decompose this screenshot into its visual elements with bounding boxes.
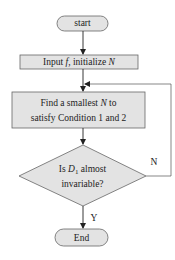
decision-node-label-line1: Is D1 almost	[19, 163, 146, 178]
flowchart-canvas	[0, 0, 175, 260]
decision-label-part: Is	[59, 164, 68, 174]
decision-label-var-d: D	[68, 164, 75, 174]
find-node-label-line1: Find a smallest N to	[12, 97, 145, 109]
input-label-part: Input	[43, 57, 65, 67]
input-node-label: Input f, initialize N	[20, 56, 138, 68]
find-label-part: to	[107, 98, 117, 108]
find-label-part: Find a smallest	[40, 98, 100, 108]
start-node-label: start	[57, 17, 108, 29]
input-label-var-n: N	[109, 57, 115, 67]
edge-label-no: N	[149, 156, 159, 168]
decision-label-part: almost	[78, 164, 106, 174]
edge-label-yes: Y	[89, 212, 99, 224]
decision-node-label-line2: invariable?	[19, 178, 146, 190]
find-node-label-line2: satisfy Condition 1 and 2	[12, 112, 145, 124]
input-label-part: , initialize	[68, 57, 108, 67]
end-node-label: End	[55, 232, 108, 244]
